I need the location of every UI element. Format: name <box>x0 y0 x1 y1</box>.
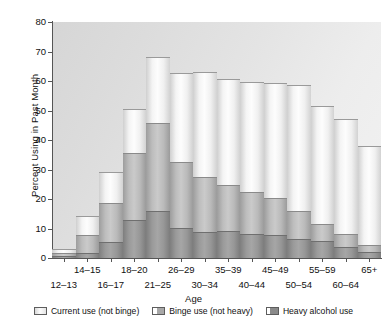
x-tick-mark <box>64 258 65 262</box>
bar-stack <box>146 57 170 258</box>
bar-segment-binge <box>193 177 217 232</box>
bar-segment-binge <box>99 203 123 243</box>
legend-item-heavy: Heavy alcohol use <box>266 306 353 316</box>
bar-segment-heavy <box>170 228 194 258</box>
bar-segment-current <box>311 106 335 224</box>
bar-segment-current <box>146 57 170 122</box>
x-tick-mark <box>369 258 370 262</box>
y-tick-label: 10 <box>20 223 46 234</box>
y-tick-label: 20 <box>20 193 46 204</box>
bar-segment-current <box>217 79 241 185</box>
y-tick-label: 30 <box>20 164 46 175</box>
bar-stack <box>193 72 217 258</box>
bar-segment-binge <box>170 162 194 228</box>
x-tick-mark <box>87 258 88 262</box>
bar-segment-current <box>76 216 100 236</box>
y-tick: 30 <box>0 170 52 171</box>
bar-segment-current <box>287 85 311 210</box>
bar-stack <box>123 109 147 258</box>
x-tick-label: 50–54 <box>276 279 322 290</box>
bar-stack <box>170 73 194 258</box>
bar-stack <box>52 249 76 258</box>
legend-item-binge: Binge use (not heavy) <box>152 306 253 316</box>
bar-segment-current <box>193 72 217 177</box>
x-tick-mark <box>158 258 159 262</box>
bar-segment-heavy <box>240 234 264 258</box>
x-tick-mark <box>205 258 206 262</box>
y-tick-label: 70 <box>20 46 46 57</box>
x-tick-mark <box>346 258 347 262</box>
x-tick-label: 26–29 <box>158 264 204 275</box>
x-tick-label: 14–15 <box>64 264 110 275</box>
x-tick-label: 12–13 <box>41 279 87 290</box>
x-tick-label: 16–17 <box>88 279 134 290</box>
bar-segment-heavy <box>264 235 288 258</box>
bar-stack <box>217 79 241 258</box>
bar-segment-binge <box>240 192 264 234</box>
x-tick-mark <box>134 258 135 262</box>
bar-stack <box>264 83 288 258</box>
bar-group <box>52 22 381 258</box>
bar-segment-binge <box>123 153 147 219</box>
bar-segment-heavy <box>287 239 311 258</box>
bar-segment-binge <box>264 198 288 235</box>
x-tick-mark <box>228 258 229 262</box>
bar-segment-heavy <box>217 231 241 258</box>
legend-label: Heavy alcohol use <box>283 306 353 316</box>
y-tick: 20 <box>0 199 52 200</box>
y-tick-label: 50 <box>20 105 46 116</box>
bar-segment-current <box>334 119 358 234</box>
x-axis-line <box>52 258 382 259</box>
chart-legend: Current use (not binge)Binge use (not he… <box>0 306 387 316</box>
y-tick: 40 <box>0 140 52 141</box>
y-tick-label: 0 <box>20 252 46 263</box>
bar-segment-binge <box>358 245 382 252</box>
bar-segment-heavy <box>146 211 170 258</box>
x-tick-label: 45–49 <box>252 264 298 275</box>
y-tick: 80 <box>0 22 52 23</box>
bar-segment-current <box>240 82 264 192</box>
bar-segment-heavy <box>123 220 147 258</box>
bar-stack <box>99 172 123 258</box>
bar-segment-current <box>358 146 382 245</box>
x-tick-label: 55–59 <box>299 264 345 275</box>
bar-segment-binge <box>334 234 358 248</box>
bar-segment-current <box>264 83 288 198</box>
bar-segment-current <box>170 73 194 162</box>
x-tick-label: 35–39 <box>205 264 251 275</box>
bar-segment-heavy <box>311 241 335 258</box>
x-tick-label: 30–34 <box>182 279 228 290</box>
bar-stack <box>358 146 382 258</box>
y-tick-mark <box>48 258 52 259</box>
bar-segment-heavy <box>334 247 358 258</box>
y-tick: 10 <box>0 229 52 230</box>
bar-stack <box>311 106 335 259</box>
legend-label: Binge use (not heavy) <box>169 306 253 316</box>
bar-segment-heavy <box>193 232 217 258</box>
x-tick-mark <box>322 258 323 262</box>
bar-segment-binge <box>217 185 241 232</box>
x-tick-label: 18–20 <box>111 264 157 275</box>
legend-swatch-current <box>34 307 47 315</box>
bar-stack <box>76 216 100 258</box>
bar-segment-current <box>99 172 123 202</box>
x-tick-mark <box>275 258 276 262</box>
x-axis-title: Age <box>0 293 387 304</box>
x-tick-label: 65+ <box>346 264 387 275</box>
y-tick: 60 <box>0 81 52 82</box>
x-tick-mark <box>181 258 182 262</box>
x-tick-label: 40–44 <box>229 279 275 290</box>
bar-segment-binge <box>76 235 100 253</box>
bar-stack <box>287 85 311 258</box>
y-tick: 70 <box>0 52 52 53</box>
bar-segment-binge <box>311 224 335 242</box>
y-tick: 50 <box>0 111 52 112</box>
bar-segment-heavy <box>99 242 123 258</box>
x-tick-mark <box>111 258 112 262</box>
x-tick-mark <box>299 258 300 262</box>
legend-label: Current use (not binge) <box>51 306 139 316</box>
x-tick-label: 60–64 <box>323 279 369 290</box>
legend-swatch-heavy <box>266 307 279 315</box>
y-tick: 0 <box>0 258 52 259</box>
x-tick-mark <box>252 258 253 262</box>
